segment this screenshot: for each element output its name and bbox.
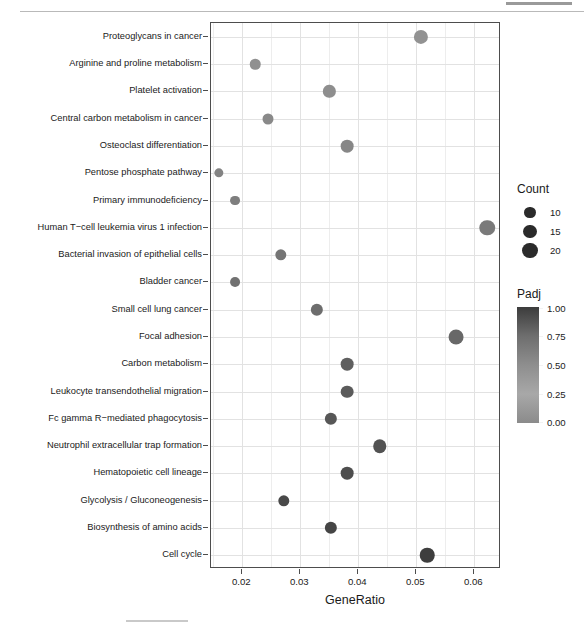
data-point (325, 413, 337, 425)
y-axis-tick-mark (203, 227, 208, 228)
gridline-horizontal (211, 37, 499, 38)
data-point (341, 385, 354, 398)
count-legend-dot-icon (524, 207, 536, 219)
y-axis-tick-mark (203, 200, 208, 201)
gridline-horizontal (211, 201, 499, 202)
y-axis-tick-mark (203, 472, 208, 473)
gridline-vertical (416, 23, 417, 567)
y-axis-tick-mark (203, 63, 208, 64)
gridline-vertical (300, 23, 301, 567)
data-point (341, 467, 354, 480)
y-axis-tick-mark (203, 527, 208, 528)
y-axis-tick-label: Biosynthesis of amino acids (87, 522, 202, 532)
data-point (479, 220, 495, 236)
data-point (373, 439, 387, 453)
count-legend-dot-icon (522, 243, 538, 259)
y-axis-labels: Proteoglycans in cancerArginine and prol… (0, 0, 202, 623)
data-point (262, 113, 273, 124)
y-axis-tick-mark (203, 36, 208, 37)
y-axis-tick-mark (203, 118, 208, 119)
padj-color-legend: Padj 1.000.750.500.250.00 (517, 287, 584, 423)
y-axis-tick-mark (203, 172, 208, 173)
y-axis-tick-mark (203, 281, 208, 282)
x-axis-tick-label: 0.02 (232, 576, 251, 587)
padj-colorbar-tick (539, 422, 543, 423)
y-axis-tick-label: Small cell lung cancer (112, 304, 202, 314)
y-axis-tick-label: Arginine and proline metabolism (69, 58, 202, 68)
padj-colorbar-label: 1.00 (547, 303, 566, 314)
data-point (230, 196, 240, 206)
x-axis-tick-mark (473, 569, 474, 574)
data-point (275, 249, 286, 260)
gridline-horizontal (211, 228, 499, 229)
count-legend-dot-icon (523, 225, 537, 239)
gridline-vertical-minor (213, 23, 214, 567)
padj-colorbar-tick (539, 308, 543, 309)
x-axis-tick-label: 0.03 (290, 576, 309, 587)
gridline-horizontal (211, 501, 499, 502)
x-axis-tick-mark (299, 569, 300, 574)
y-axis-tick-label: Primary immunodeficiency (93, 195, 202, 205)
data-point (414, 30, 428, 44)
gridline-horizontal (211, 91, 499, 92)
y-axis-tick-label: Hematopoietic cell lineage (93, 467, 202, 477)
gridline-horizontal (211, 555, 499, 556)
y-axis-tick-mark (203, 145, 208, 146)
count-legend-keys: 101520 (517, 203, 584, 260)
gridline-vertical-minor (329, 23, 330, 567)
count-size-legend: Count 101520 (517, 182, 584, 260)
data-point (310, 304, 322, 316)
gridline-horizontal (211, 473, 499, 474)
gridline-horizontal (211, 173, 499, 174)
data-point (341, 358, 354, 371)
y-axis-tick-label: Cell cycle (162, 549, 202, 559)
plot-panel (210, 22, 500, 568)
padj-colorbar-label: 0.25 (547, 389, 566, 400)
x-axis-tick-label: 0.06 (464, 576, 483, 587)
gridline-horizontal (211, 310, 499, 311)
gridline-horizontal (211, 282, 499, 283)
data-point (325, 522, 337, 534)
y-axis-tick-mark (203, 363, 208, 364)
x-axis-tick-mark (415, 569, 416, 574)
kegg-dotplot-figure: Proteoglycans in cancerArginine and prol… (0, 0, 584, 623)
padj-colorbar-tick (539, 336, 543, 337)
gridline-vertical-minor (271, 23, 272, 567)
gridline-horizontal (211, 119, 499, 120)
y-axis-tick-label: Platelet activation (129, 85, 202, 95)
y-axis-tick-mark (203, 90, 208, 91)
data-point (214, 169, 223, 178)
padj-colorbar-body: 1.000.750.500.250.00 (517, 307, 584, 423)
padj-colorbar (517, 307, 539, 423)
y-axis-tick-mark (203, 500, 208, 501)
y-axis-tick-label: Proteoglycans in cancer (103, 31, 202, 41)
data-point (323, 85, 335, 97)
count-legend-dot-swatch (517, 207, 543, 219)
y-axis-tick-label: Carbon metabolism (121, 358, 202, 368)
gridline-vertical-minor (445, 23, 446, 567)
y-axis-tick-label: Bacterial invasion of epithelial cells (58, 249, 202, 259)
y-axis-tick-mark (203, 391, 208, 392)
y-axis-tick-label: Bladder cancer (139, 276, 202, 286)
y-axis-tick-label: Pentose phosphate pathway (85, 167, 202, 177)
padj-colorbar-label: 0.00 (547, 417, 566, 428)
padj-colorbar-tick (539, 394, 543, 395)
data-point (449, 329, 464, 344)
y-axis-tick-mark (203, 445, 208, 446)
count-legend-dot-swatch (517, 243, 543, 259)
y-axis-tick-label: Neutrophil extracellular trap formation (47, 440, 202, 450)
data-point (278, 495, 289, 506)
data-point (341, 140, 354, 153)
gridline-horizontal (211, 392, 499, 393)
gridline-horizontal (211, 446, 499, 447)
gridline-horizontal (211, 528, 499, 529)
gridline-horizontal (211, 146, 499, 147)
gridline-horizontal (211, 419, 499, 420)
count-legend-label: 20 (550, 245, 561, 256)
x-axis-tick-label: 0.05 (406, 576, 425, 587)
x-axis-tick-label: 0.04 (348, 576, 367, 587)
count-legend-label: 10 (550, 207, 561, 218)
gridline-vertical-minor (387, 23, 388, 567)
padj-colorbar-label: 0.75 (547, 331, 566, 342)
gridline-vertical (242, 23, 243, 567)
